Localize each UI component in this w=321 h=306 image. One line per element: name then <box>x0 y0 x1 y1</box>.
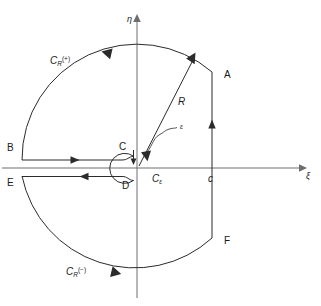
epsilon-leader-group <box>146 128 178 154</box>
radius-arrow-group <box>139 53 196 167</box>
upper-arc-label: CR(+) <box>50 51 70 67</box>
branch-cut-lower-group <box>22 173 134 181</box>
point-a-label: A <box>224 70 231 80</box>
lower-arc-label: CR(−) <box>66 262 86 278</box>
branch-cut-upper-group <box>22 156 134 164</box>
branch-cut-lower-line <box>22 177 134 181</box>
vertical-contour-group <box>208 72 215 238</box>
vertical-contour-arrowhead <box>208 120 215 129</box>
contour-diagram-figure: η ξ CR(+) CR(−) R ε Cε A B C D E F c <box>0 0 321 306</box>
branch-cut-lower-arrowhead <box>80 173 89 180</box>
point-c-label: C <box>119 142 126 152</box>
radius-label: R <box>178 97 185 107</box>
radius-arrowhead <box>186 53 195 65</box>
lower-arc-label-sup: (−) <box>78 266 86 273</box>
lower-arc-path <box>22 176 212 268</box>
horizontal-axis-label: ξ <box>306 172 310 181</box>
point-d-label: D <box>122 181 129 191</box>
contour-diagram-canvas <box>0 0 321 306</box>
radius-line <box>139 60 193 166</box>
lower-arc-arrowhead <box>110 266 121 277</box>
epsilon-label: ε <box>180 123 183 130</box>
point-f-label: F <box>224 236 230 246</box>
branch-cut-upper-arrowhead <box>71 156 80 163</box>
vertical-axis-label: η <box>127 15 132 24</box>
lower-arc-group <box>22 176 212 277</box>
abscissa-label: c <box>208 174 213 184</box>
axis-group <box>2 14 307 298</box>
point-e-label: E <box>7 178 14 188</box>
point-b-label: B <box>7 143 14 153</box>
small-circle-label: Cε <box>152 169 162 185</box>
entry-tick-arrowhead <box>131 159 137 166</box>
upper-arc-label-sup: (+) <box>62 55 70 62</box>
epsilon-leader-squiggle <box>146 128 178 154</box>
small-circle-label-sub: ε <box>159 178 162 185</box>
vertical-axis-arrowhead <box>133 14 141 22</box>
upper-arc-arrowhead <box>102 48 113 59</box>
